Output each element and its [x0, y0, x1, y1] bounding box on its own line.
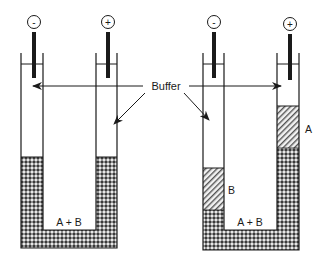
buffer-callout: Buffer: [33, 80, 281, 124]
left-u-tube: - + A + B: [21, 16, 117, 249]
plus-icon: +: [287, 19, 293, 30]
anode-electrode-left-tube: +: [102, 16, 115, 79]
plus-icon: +: [105, 17, 111, 28]
cathode-electrode-right-tube: -: [208, 16, 221, 79]
anode-electrode-right-tube: +: [284, 18, 297, 81]
buffer-label: Buffer: [151, 80, 180, 92]
minus-icon: -: [32, 17, 35, 28]
buffer-arrow-left-tube-right: [114, 93, 145, 124]
band-a: [277, 106, 299, 148]
mixture-label-right: A + B: [237, 216, 262, 228]
electrophoresis-diagram: - + A + B -: [0, 0, 329, 264]
buffer-arrow-right-tube-left: [184, 93, 209, 120]
band-b: [203, 168, 224, 210]
right-u-tube: - + B A A + B: [203, 16, 312, 251]
minus-icon: -: [212, 17, 215, 28]
band-b-label: B: [228, 184, 235, 196]
cathode-electrode-left-tube: -: [28, 16, 41, 79]
mixture-label-left: A + B: [56, 216, 81, 228]
left-tube-mixture-fill: [21, 157, 117, 248]
band-a-label: A: [305, 123, 312, 135]
